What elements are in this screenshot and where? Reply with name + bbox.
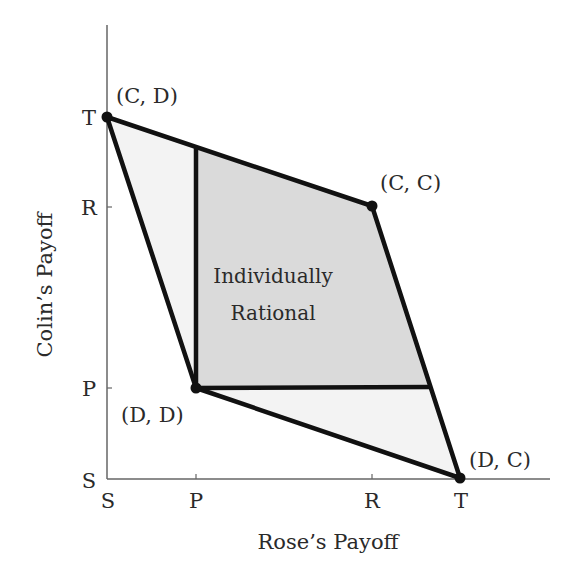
x-tick-label-r: R	[364, 489, 381, 513]
y-tick-label-s: S	[82, 469, 96, 493]
payoff-diagram: (C, D) (C, C) (D, D) (D, C) Individually…	[0, 0, 579, 574]
label-dc: (D, C)	[469, 448, 531, 472]
y-tick-label-t: T	[82, 106, 96, 130]
label-dd: (D, D)	[121, 403, 184, 427]
x-tick-label-t: T	[454, 489, 468, 513]
x-axis-title: Rose’s Payoff	[258, 530, 401, 554]
region-label-line1: Individually	[213, 264, 333, 288]
y-tick-label-r: R	[81, 196, 98, 220]
point-cc	[367, 201, 378, 212]
point-dd	[191, 383, 202, 394]
y-axis-title: Colin’s Payoff	[33, 210, 57, 357]
label-cc: (C, C)	[380, 171, 441, 195]
y-tick-label-p: P	[82, 377, 96, 401]
point-dc	[455, 473, 466, 484]
ir-horizontal-line	[196, 387, 431, 388]
label-cd: (C, D)	[116, 84, 178, 108]
region-label-line2: Rational	[230, 301, 315, 325]
x-tick-label-p: P	[189, 489, 203, 513]
x-tick-label-s: S	[101, 489, 115, 513]
point-cd	[102, 112, 113, 123]
